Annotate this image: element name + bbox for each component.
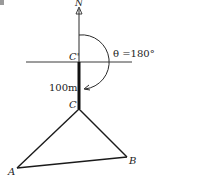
point-b-label: B: [128, 155, 136, 166]
segment-a-b: [17, 157, 127, 168]
point-c-prime-label: C': [69, 51, 79, 62]
segment-c-a: [17, 109, 79, 168]
survey-diagram: N C' θ =180° 100m C A B: [0, 0, 212, 183]
angle-label: θ =180°: [113, 48, 155, 59]
point-c-label: C: [69, 99, 77, 110]
arc-arrow-icon: [84, 85, 90, 90]
distance-label: 100m: [49, 82, 78, 93]
segment-c-b: [79, 109, 127, 157]
north-label: N: [74, 0, 84, 8]
point-a-label: A: [7, 166, 15, 177]
